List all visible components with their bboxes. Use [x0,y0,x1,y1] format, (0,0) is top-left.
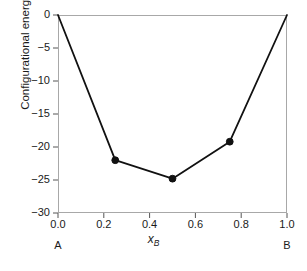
x-tick-label: 1.0 [267,218,307,230]
x-axis-label-subscript: B [154,238,160,248]
axis-ticks [53,15,287,218]
plot-area [58,15,287,213]
data-markers [112,138,233,182]
x-tick-label: 0.2 [84,218,124,230]
plot-svg [58,15,287,213]
axis-spines [58,15,287,213]
x-tick-label: 0.6 [175,218,215,230]
x-tick-label: 0.8 [221,218,261,230]
x-axis-label: xB [0,232,307,248]
x-tick-label: 0.4 [130,218,170,230]
data-line [58,15,287,179]
series-line [58,15,287,179]
data-marker [112,157,119,164]
data-marker [169,175,176,182]
chart-figure: Configurational energy 0−5−10−15−20−25−3… [0,0,307,271]
data-marker [226,138,233,145]
x-tick-label: 0.0 [38,218,78,230]
